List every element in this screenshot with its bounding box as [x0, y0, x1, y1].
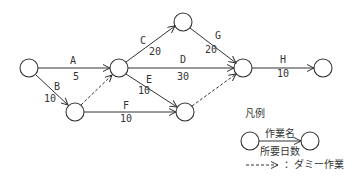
label-c-name: C: [140, 35, 146, 46]
label-d-name: D: [180, 54, 186, 65]
label-b-name: B: [54, 81, 60, 92]
label-h-days: 10: [277, 68, 289, 79]
label-c-days: 20: [149, 46, 161, 57]
node-6: [234, 59, 252, 77]
label-b-days: 10: [44, 93, 56, 104]
label-g-days: 20: [205, 44, 217, 55]
legend-title: 凡例: [245, 107, 265, 119]
node-5: [176, 103, 194, 121]
label-g-name: G: [215, 30, 221, 41]
label-d-days: 30: [177, 71, 189, 82]
label-a-days: 5: [73, 71, 79, 82]
label-f-name: F: [123, 100, 129, 111]
legend: 凡例 作業名 所要日数 ：ダミー作業: [241, 107, 344, 170]
legend-activity-name: 作業名: [265, 127, 295, 139]
node-2: [110, 59, 128, 77]
label-h-name: H: [280, 54, 286, 65]
dummy-arrow-5-6: [192, 74, 236, 106]
node-4: [174, 13, 192, 31]
arrow-diagram: A 5 B 10 C 20 D 30 E 10 F 10 G 20 H 10 凡…: [0, 0, 361, 181]
label-e-name: E: [146, 74, 152, 85]
label-e-days: 10: [138, 85, 150, 96]
legend-node-start: [241, 132, 259, 150]
legend-dummy-label: ：ダミー作業: [284, 158, 344, 170]
node-1: [20, 59, 38, 77]
label-a-name: A: [70, 55, 76, 66]
legend-node-end: [301, 132, 319, 150]
label-f-days: 10: [120, 113, 132, 124]
dummy-arrow-3-2: [81, 75, 112, 105]
legend-required-days: 所要日数: [260, 145, 300, 157]
node-7: [314, 59, 332, 77]
node-3: [66, 103, 84, 121]
